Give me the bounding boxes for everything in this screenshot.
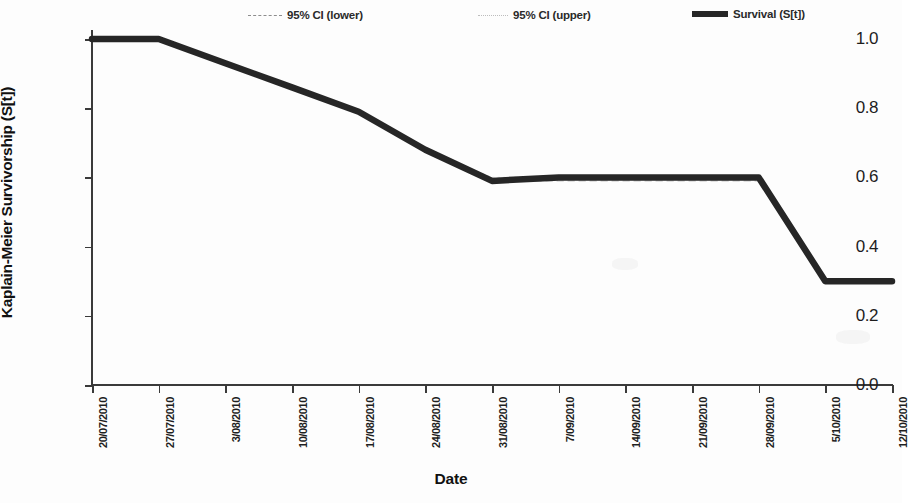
x-axis-tick <box>692 385 694 393</box>
x-axis-tick <box>892 385 894 393</box>
y-axis-tick-label: 1.0 <box>856 29 878 49</box>
dotted-line-icon <box>478 15 508 16</box>
x-axis-tick-label: 20/07/2010 <box>97 397 109 448</box>
legend-label-ci-upper: 95% CI (upper) <box>513 9 591 21</box>
x-axis-tick <box>225 385 227 393</box>
x-axis-tick-label: 10/08/2010 <box>297 397 309 448</box>
y-axis-tick <box>85 39 92 41</box>
y-axis-tick <box>85 247 92 249</box>
x-axis-tick <box>292 385 294 393</box>
x-axis-tick-label: 24/08/2010 <box>430 397 442 448</box>
legend-label-ci-lower: 95% CI (lower) <box>287 9 363 21</box>
legend-item-ci-upper: 95% CI (upper) <box>478 7 591 23</box>
x-axis-tick-label: 12/10/2010 <box>897 397 909 448</box>
x-axis-tick <box>159 385 161 393</box>
y-axis-tick <box>85 177 92 179</box>
y-axis-title: Kaplain-Meier Survivorship (S[t]) <box>0 0 16 405</box>
x-axis-tick <box>92 385 94 393</box>
x-axis-tick-label: 21/09/2010 <box>697 397 709 448</box>
y-axis-tick-label: 0.8 <box>856 98 878 118</box>
x-axis-tick-label: 17/08/2010 <box>364 397 376 448</box>
solid-line-icon <box>692 11 728 17</box>
x-axis-tick <box>425 385 427 393</box>
x-axis-tick <box>559 385 561 393</box>
x-axis-tick-label: 7/09/2010 <box>564 397 576 442</box>
y-axis-tick <box>85 385 92 387</box>
x-axis-tick <box>359 385 361 393</box>
x-axis-tick <box>825 385 827 393</box>
y-axis-tick-label: 0.0 <box>856 375 878 395</box>
x-axis-tick-label: 5/10/2010 <box>830 397 842 442</box>
y-axis-tick-label: 0.2 <box>856 305 878 325</box>
x-axis-title: Date <box>0 470 902 488</box>
x-axis-tick-label: 31/08/2010 <box>497 397 509 448</box>
legend-item-ci-lower: 95% CI (lower) <box>248 7 363 23</box>
y-axis-tick <box>85 108 92 110</box>
legend-item-survival: Survival (S[t]) <box>692 6 805 22</box>
x-axis-tick-label: 3/08/2010 <box>230 397 242 442</box>
dashed-line-icon <box>248 15 282 16</box>
y-axis-tick <box>85 316 92 318</box>
legend-label-survival: Survival (S[t]) <box>733 8 805 20</box>
plot-area: 0.00.20.40.60.81.020/07/201027/07/20103/… <box>92 39 892 385</box>
x-axis-tick-label: 14/09/2010 <box>630 397 642 448</box>
x-axis-tick-label: 27/07/2010 <box>164 397 176 448</box>
x-axis-tick-label: 28/09/2010 <box>764 397 776 448</box>
chart-legend: 95% CI (lower) 95% CI (upper) Survival (… <box>0 4 902 30</box>
x-axis-tick <box>625 385 627 393</box>
x-axis-tick <box>759 385 761 393</box>
y-axis-tick-label: 0.4 <box>856 236 878 256</box>
x-axis-tick <box>492 385 494 393</box>
y-axis-tick-label: 0.6 <box>856 167 878 187</box>
